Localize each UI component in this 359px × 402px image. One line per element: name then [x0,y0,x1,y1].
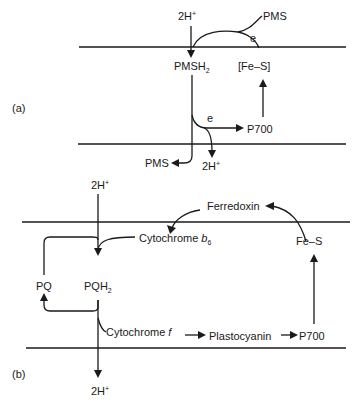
panel-a: (a) 2H+ PMS e PMSH2 [Fe–S] PMS e P700 2H… [12,10,346,172]
a-2h-top: 2H+ [178,10,196,22]
arrowhead-icon [310,254,318,262]
arrowhead-icon [290,331,298,339]
arrowhead-icon [236,124,244,132]
arrowhead-icon [265,202,274,210]
b-2h-bottom: 2H+ [91,385,109,397]
arrowhead-icon [208,150,216,158]
b-pqh2: PQH2 [84,280,112,294]
arrowhead-icon [40,293,48,301]
arrowhead-icon [94,370,102,378]
b-2h-top: 2H+ [91,179,109,191]
a-fes: [Fe–S] [238,60,270,72]
b-cyt-f: Cytochrome f [106,326,172,338]
b-cytb6-to-pqh2 [98,237,135,250]
a-p700: P700 [247,123,273,135]
a-e-top: e [250,32,256,44]
arrowhead-icon [171,159,179,167]
a-e-path [192,115,238,128]
a-pmsh2: PMSH2 [174,60,210,74]
arrowhead-icon [259,79,267,87]
b-plastocyanin: Plastocyanin [209,330,271,342]
b-q-cycle-top [44,237,98,275]
b-cyt-b6: Cytochrome b6 [139,232,211,246]
b-ferredoxin-to-cytb6 [172,210,200,228]
a-to-pms [178,156,192,163]
a-h-out [204,128,212,152]
b-p700: P700 [299,330,325,342]
b-q-cycle-bottom [44,300,98,311]
b-fes: Fe–S [296,235,322,247]
panel-b: (b) 2H+ Ferredoxin Cytochrome b6 Fe–S PQ… [12,179,350,397]
b-pqh2-to-cytf [98,318,106,332]
diagram-canvas: (a) 2H+ PMS e PMSH2 [Fe–S] PMS e P700 2H… [0,0,359,402]
a-2h-bottom: 2H+ [202,160,220,172]
arrowhead-icon [198,331,206,339]
a-pms-bottom: PMS [145,157,169,169]
a-e-bottom: e [207,112,213,124]
panel-a-label: (a) [12,102,25,114]
b-ferredoxin: Ferredoxin [207,200,260,212]
panel-b-label: (b) [12,368,25,380]
b-pq: PQ [36,280,52,292]
arrowhead-icon [187,50,195,58]
a-pms-top: PMS [263,10,287,22]
